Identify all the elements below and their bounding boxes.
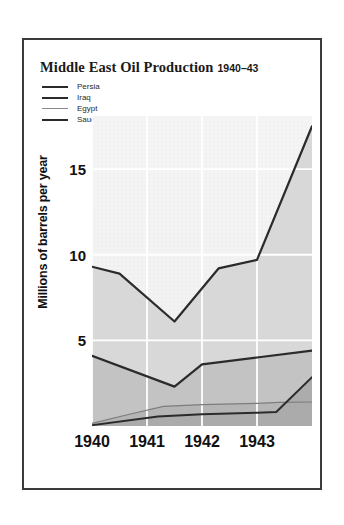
legend-label-iraq: Iraq [77, 92, 91, 103]
chart-canvas [92, 116, 312, 426]
legend-swatch-saudi-arabia [42, 119, 68, 121]
y-tick-label: 15 [46, 161, 92, 178]
legend-swatch-egypt [42, 108, 68, 109]
legend-label-persia: Persia [77, 81, 100, 92]
x-tick-label: 1942 [184, 433, 220, 451]
x-tick-label: 1940 [74, 433, 110, 451]
figure-frame: Middle East Oil Production1940–43 Persia… [22, 38, 322, 490]
legend-swatch-persia [42, 86, 68, 88]
y-tick-label: 5 [46, 332, 92, 349]
chart-subtitle: 1940–43 [218, 62, 259, 74]
title-block: Middle East Oil Production1940–43 [40, 58, 258, 76]
y-tick-label: 10 [46, 246, 92, 263]
legend-swatch-iraq [42, 97, 68, 99]
x-tick-label: 1941 [129, 433, 165, 451]
plot-area: 51015 1940194119421943 [92, 116, 312, 426]
x-tick-label: 1943 [239, 433, 275, 451]
legend-item-iraq: Iraq [42, 92, 122, 103]
page-title: Middle East Oil Production [40, 59, 214, 75]
legend-item-egypt: Egypt [42, 103, 122, 114]
legend-label-egypt: Egypt [77, 103, 97, 114]
legend-item-persia: Persia [42, 81, 122, 92]
